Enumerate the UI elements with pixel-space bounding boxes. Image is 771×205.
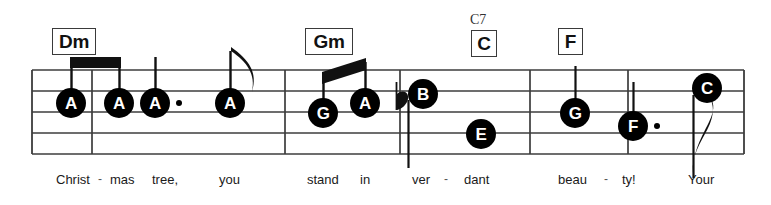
notehead-e[interactable]: E (466, 119, 496, 149)
flat-accidental-icon (397, 82, 409, 110)
augmentation-dot (654, 123, 660, 129)
sheet-music-excerpt: DmGmC7CF AAAAGABEGFC Christ-mastree,yous… (0, 0, 771, 205)
lyric-syllable: in (360, 172, 370, 187)
notehead-a[interactable]: A (215, 88, 245, 118)
eighth-flag (693, 95, 714, 178)
notehead-a[interactable]: A (350, 88, 380, 118)
lyric-syllable: you (219, 172, 240, 187)
notehead-g[interactable]: G (308, 98, 338, 128)
lyric-syllable: ver (412, 172, 430, 187)
lyric-syllable: tree, (152, 172, 178, 187)
notehead-a[interactable]: A (104, 88, 134, 118)
notehead-a[interactable]: A (140, 88, 170, 118)
lyric-syllable: ty! (622, 172, 636, 187)
augmentation-dot (176, 100, 182, 106)
chord-symbol-gm[interactable]: Gm (305, 28, 353, 55)
lyric-hyphen: - (98, 172, 102, 186)
lyric-syllable: Your (688, 172, 714, 187)
notehead-a[interactable]: A (56, 88, 86, 118)
beam (70, 57, 121, 68)
lyric-hyphen: - (604, 172, 608, 186)
chord-symbol-f[interactable]: F (558, 28, 583, 55)
lyric-syllable: stand (307, 172, 339, 187)
lyric-syllable: beau (558, 172, 587, 187)
beam (322, 58, 366, 84)
chord-symbol-dm[interactable]: Dm (52, 28, 96, 55)
notehead-c[interactable]: C (692, 73, 722, 103)
lyric-syllable: mas (110, 172, 135, 187)
lyric-syllable: dant (464, 172, 489, 187)
lyric-hyphen: - (444, 172, 448, 186)
notehead-b[interactable]: B (408, 79, 438, 109)
chord-alternate-label: C7 (470, 12, 486, 28)
chord-symbol-c[interactable]: C (471, 30, 497, 57)
notehead-g[interactable]: G (560, 98, 590, 128)
notehead-f[interactable]: F (618, 111, 648, 141)
lyric-syllable: Christ (56, 172, 90, 187)
